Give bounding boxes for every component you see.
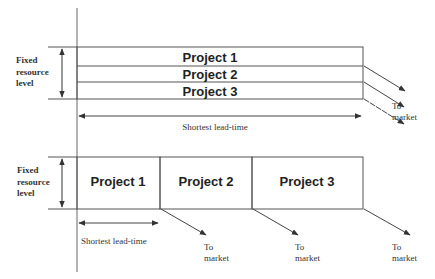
bottom-to-market-arrow-1 — [161, 209, 206, 235]
top-to-market-label: To market — [392, 101, 417, 122]
top-project-1-label: Project 1 — [183, 50, 238, 65]
bottom-to-market-arrow-2 — [253, 209, 298, 235]
top-project-2-label: Project 2 — [183, 67, 238, 82]
bottom-to-market-arrow-3 — [364, 209, 410, 235]
bottom-fixed-resource-label: Fixed resource level — [17, 165, 52, 198]
top-fixed-resource-label: Fixed resource level — [16, 55, 51, 88]
top-project-3-label: Project 3 — [183, 84, 238, 99]
bottom-lead-time-label: Shortest lead-time — [81, 236, 147, 246]
top-to-market-arrow-1 — [364, 66, 405, 91]
bottom-to-market-label-1: To market — [204, 242, 229, 263]
top-lead-time-label: Shortest lead-time — [182, 122, 248, 132]
project-scheduling-diagram: Fixed resource level Project 1 Project 2… — [0, 0, 435, 279]
bottom-project-1-label: Project 1 — [91, 174, 146, 189]
bottom-to-market-label-3: To market — [392, 242, 417, 263]
bottom-project-2-label: Project 2 — [179, 174, 234, 189]
top-section: Fixed resource level Project 1 Project 2… — [16, 47, 417, 132]
bottom-project-3-label: Project 3 — [280, 174, 335, 189]
bottom-to-market-label-2: To market — [295, 242, 320, 263]
